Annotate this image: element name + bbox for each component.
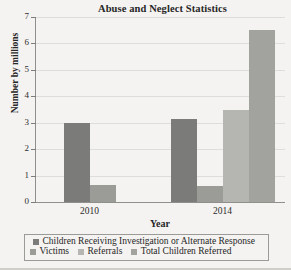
legend-swatch-icon (131, 249, 137, 255)
legend-swatch-icon (30, 249, 36, 255)
legend-entry: Total Children Referred (131, 247, 231, 257)
y-tick-label: 2 (14, 144, 29, 153)
chart-title: Abuse and Neglect Statistics (40, 3, 285, 14)
bar (171, 119, 197, 202)
legend-label: Victims (40, 247, 70, 257)
bar (90, 185, 116, 202)
legend-label: Total Children Referred (141, 247, 232, 257)
y-tick-label: 0 (14, 197, 29, 206)
legend-swatch-icon (33, 239, 39, 245)
legend-row-2: VictimsReferralsTotal Children Referred (29, 247, 264, 257)
chart-legend: Children Receiving Investigation or Alte… (24, 234, 269, 261)
plot-area (35, 17, 285, 202)
legend-entry: Victims (30, 247, 69, 257)
x-tick-label: 2010 (60, 206, 120, 216)
x-axis-title: Year (35, 218, 285, 229)
y-tick-label: 1 (14, 171, 29, 180)
gridline (35, 202, 285, 203)
y-tick-label: 7 (14, 12, 29, 21)
legend-swatch-icon (78, 249, 84, 255)
legend-label: Referrals (88, 247, 123, 257)
bar-chart: Abuse and Neglect Statistics Number by m… (0, 0, 291, 270)
y-tick-mark (31, 202, 36, 203)
y-tick-label: 4 (14, 91, 29, 100)
bar (249, 30, 275, 202)
y-tick-label: 6 (14, 38, 29, 47)
bar (197, 186, 223, 202)
x-tick-label: 2014 (193, 206, 253, 216)
bar (64, 123, 90, 202)
legend-entry: Referrals (78, 247, 122, 257)
bar (223, 110, 249, 203)
y-tick-label: 5 (14, 65, 29, 74)
y-tick-label: 3 (14, 118, 29, 127)
